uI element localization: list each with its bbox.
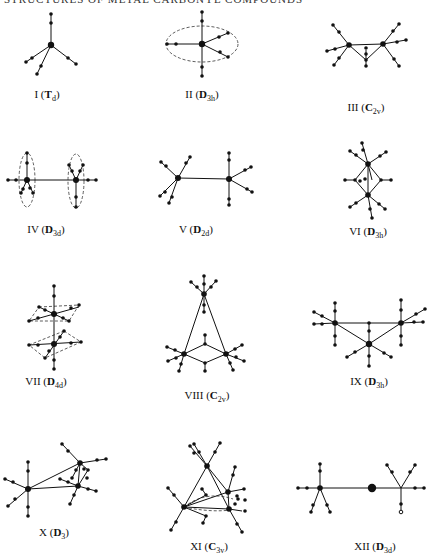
caption-VII: VII (D4d) bbox=[25, 375, 66, 390]
caption-V: V (D2d) bbox=[179, 223, 213, 238]
caption-I: I (Td) bbox=[34, 88, 59, 103]
structure-IX bbox=[312, 298, 427, 368]
caption-VIII: VIII (C2v) bbox=[185, 389, 230, 404]
structure-XII bbox=[296, 462, 426, 514]
structure-VIII bbox=[165, 274, 246, 373]
structure-I bbox=[24, 12, 78, 76]
structure-V bbox=[158, 151, 254, 207]
caption-X: X (D3) bbox=[39, 526, 69, 541]
structure-II bbox=[165, 10, 238, 78]
caption-IX: IX (D3h) bbox=[350, 375, 388, 390]
caption-II: II (D3h) bbox=[185, 88, 218, 103]
structure-IV bbox=[6, 151, 98, 209]
caption-XII: XII (D3d) bbox=[354, 540, 395, 554]
caption-VI: VI (D3h) bbox=[349, 225, 387, 240]
structure-XI bbox=[166, 441, 247, 534]
caption-XI: XI (C3v) bbox=[190, 540, 228, 554]
caption-IV: IV (D3d) bbox=[27, 223, 64, 238]
structure-VI bbox=[343, 141, 393, 220]
structure-VII bbox=[27, 284, 83, 371]
caption-III: III (C2v) bbox=[347, 101, 384, 116]
structures-figure: .b { stroke:#111; stroke-width:1; fill:n… bbox=[0, 0, 432, 554]
structure-III bbox=[325, 22, 408, 68]
structure-X bbox=[3, 442, 108, 518]
